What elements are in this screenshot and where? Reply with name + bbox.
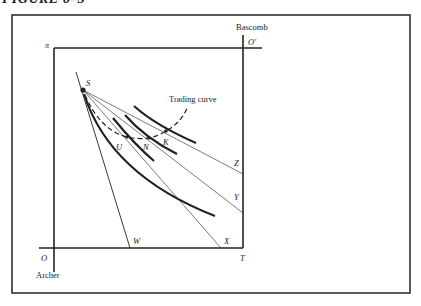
point-k bbox=[164, 129, 168, 133]
indifference-curve-archer-low bbox=[84, 94, 215, 216]
indifference-curve-n bbox=[125, 115, 177, 154]
label-z: Z bbox=[234, 158, 239, 168]
price-line-sy bbox=[83, 90, 243, 213]
label-w: W bbox=[133, 236, 141, 246]
label-pi: π bbox=[45, 41, 50, 50]
label-y: Y bbox=[234, 192, 240, 202]
point-u bbox=[125, 135, 128, 138]
label-u: U bbox=[116, 142, 123, 152]
label-k: K bbox=[162, 137, 170, 147]
outer-frame bbox=[12, 15, 410, 293]
price-line-sz bbox=[83, 90, 243, 174]
price-line-sw bbox=[76, 72, 130, 248]
price-line-sx bbox=[83, 90, 221, 248]
label-bascomb: Bascomb bbox=[236, 22, 268, 32]
point-n bbox=[147, 136, 150, 139]
label-o: O bbox=[41, 253, 47, 263]
label-n: N bbox=[142, 142, 150, 152]
label-t: T bbox=[240, 253, 246, 263]
label-x: X bbox=[223, 236, 230, 246]
label-trading-curve: Trading curve bbox=[169, 94, 217, 104]
point-s bbox=[80, 87, 85, 92]
edgeworth-box-diagram: π Bascomb O′ S Trading curve U N K Z Y W… bbox=[0, 0, 421, 306]
label-archer: Archer bbox=[36, 270, 60, 280]
label-o-prime: O′ bbox=[248, 37, 256, 47]
label-s: S bbox=[86, 78, 91, 88]
